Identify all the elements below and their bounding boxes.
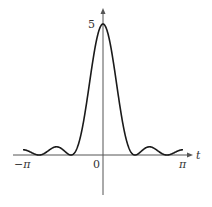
x-axis-label: t [196,149,201,162]
fejer-kernel-chart: 5 t −π 0 π [0,0,212,207]
peak-label: 5 [88,18,95,31]
x-axis-arrow-icon [187,153,193,158]
y-axis-arrow-icon [101,8,106,14]
neg-pi-tick-label: −π [14,158,31,171]
pi-tick-label: π [178,158,187,171]
zero-tick-label: 0 [93,158,100,171]
